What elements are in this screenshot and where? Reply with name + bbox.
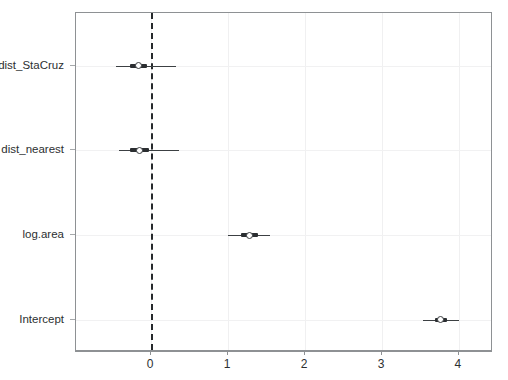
plot-panel	[75, 12, 492, 351]
y-tick-label: dist_nearest	[1, 143, 64, 156]
x-tick-mark	[304, 351, 305, 355]
x-tick-label: 4	[455, 357, 462, 371]
x-tick-label: 3	[378, 357, 385, 371]
x-axis-line	[75, 351, 492, 352]
x-tick-mark	[150, 351, 151, 355]
x-tick-label: 1	[224, 357, 231, 371]
y-tick-label: Intercept	[19, 312, 64, 325]
x-tick-mark	[458, 351, 459, 355]
y-tick-label: dist_StaCruz	[0, 58, 64, 71]
x-tick-label: 2	[301, 357, 308, 371]
y-tick-mark	[70, 149, 75, 150]
data-layer	[76, 13, 491, 350]
estimate-point	[135, 62, 142, 69]
estimate-point	[136, 147, 143, 154]
x-tick-mark	[381, 351, 382, 355]
y-tick-mark	[70, 234, 75, 235]
y-tick-mark	[70, 65, 75, 66]
coefficient-plot-figure: 01234 dist_StaCruzdist_nearestlog.areaIn…	[0, 0, 508, 380]
y-tick-label: log.area	[22, 228, 64, 241]
estimate-point	[437, 316, 444, 323]
x-tick-label: 0	[147, 357, 154, 371]
x-tick-mark	[227, 351, 228, 355]
y-tick-mark	[70, 319, 75, 320]
estimate-point	[246, 232, 253, 239]
